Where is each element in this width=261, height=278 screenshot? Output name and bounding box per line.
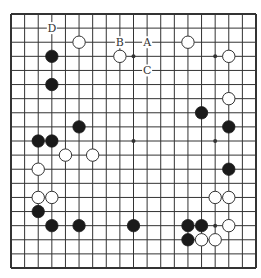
point-label: B: [116, 36, 124, 49]
white-stone: [73, 36, 85, 48]
labels-layer: DBAC: [47, 22, 152, 77]
star-point: [213, 54, 217, 58]
white-stone: [114, 50, 126, 62]
white-stone: [209, 234, 221, 246]
black-stone: [46, 78, 58, 90]
black-stone: [46, 50, 58, 62]
white-stone: [86, 149, 98, 161]
white-stone: [32, 191, 44, 203]
white-stone: [46, 191, 58, 203]
black-stone: [73, 219, 85, 231]
point-label: D: [47, 22, 56, 35]
black-stone: [223, 163, 235, 175]
white-stone: [59, 149, 71, 161]
white-stone: [209, 191, 221, 203]
black-stone: [182, 219, 194, 231]
white-stone: [195, 234, 207, 246]
go-board: DBAC: [0, 0, 261, 278]
black-stone: [32, 135, 44, 147]
black-stone: [32, 205, 44, 217]
black-stone: [195, 107, 207, 119]
white-stone: [223, 219, 235, 231]
point-label: A: [142, 36, 152, 49]
white-stone: [223, 92, 235, 104]
star-point: [132, 54, 136, 58]
black-stone: [46, 135, 58, 147]
point-label: C: [143, 64, 151, 77]
black-stone: [195, 219, 207, 231]
star-point: [213, 224, 217, 228]
black-stone: [73, 121, 85, 133]
white-stone: [223, 191, 235, 203]
black-stone: [46, 219, 58, 231]
white-stone: [182, 36, 194, 48]
black-stone: [127, 219, 139, 231]
star-point: [132, 139, 136, 143]
white-stone: [223, 50, 235, 62]
white-stone: [32, 163, 44, 175]
black-stone: [223, 121, 235, 133]
star-point: [213, 139, 217, 143]
black-stone: [182, 234, 194, 246]
